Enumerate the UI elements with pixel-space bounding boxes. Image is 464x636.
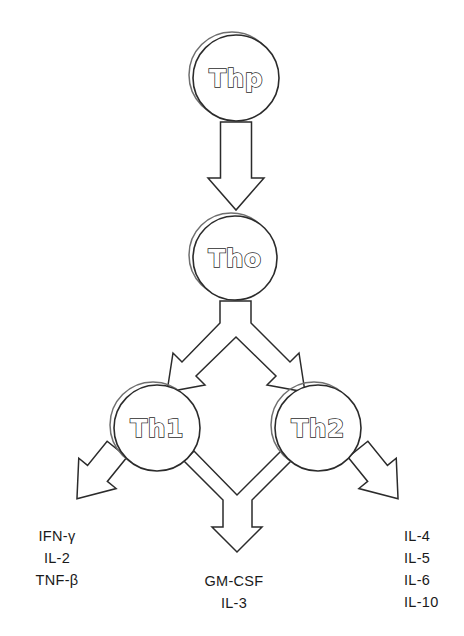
- list-item: IL-6: [404, 572, 430, 588]
- list-item: IL-3: [221, 595, 247, 611]
- th-differentiation-diagram: Thp Tho Th1 Th2 IFN-γ IL-2 TNF-β: [0, 0, 464, 636]
- node-thp-label: Thp: [209, 64, 263, 93]
- merging-arrow-icon: [184, 451, 291, 552]
- branching-arrow-icon: [167, 301, 305, 392]
- diagram-canvas: Thp Tho Th1 Th2 IFN-γ IL-2 TNF-β: [0, 0, 464, 636]
- list-item: IL-10: [404, 594, 439, 610]
- th2-cytokine-list: IL-4 IL-5 IL-6 IL-10: [404, 528, 439, 610]
- th1-cytokine-list: IFN-γ IL-2 TNF-β: [36, 528, 79, 588]
- node-tho[interactable]: Tho: [189, 213, 277, 300]
- list-item: IL-2: [44, 550, 70, 566]
- list-item: GM-CSF: [205, 573, 264, 589]
- node-th2-label: Th2: [291, 414, 345, 443]
- list-item: IL-4: [404, 528, 430, 544]
- list-item: TNF-β: [36, 572, 79, 588]
- shared-cytokine-list: GM-CSF IL-3: [205, 573, 264, 611]
- list-item: IL-5: [404, 550, 430, 566]
- node-tho-label: Tho: [208, 244, 262, 273]
- node-thp[interactable]: Thp: [189, 32, 279, 121]
- node-th1-label: Th1: [130, 414, 184, 443]
- list-item: IFN-γ: [39, 528, 76, 544]
- down-arrow-icon: [208, 122, 264, 210]
